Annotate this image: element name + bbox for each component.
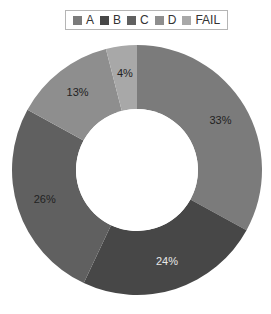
data-label-b: 24% <box>156 255 178 267</box>
data-label-c: 26% <box>34 193 56 205</box>
donut-hole <box>76 109 198 231</box>
data-label-a: 33% <box>209 114 231 126</box>
donut-chart: 33%24%26%13%4% <box>0 0 271 314</box>
data-label-d: 13% <box>67 86 89 98</box>
data-label-fail: 4% <box>117 67 133 79</box>
